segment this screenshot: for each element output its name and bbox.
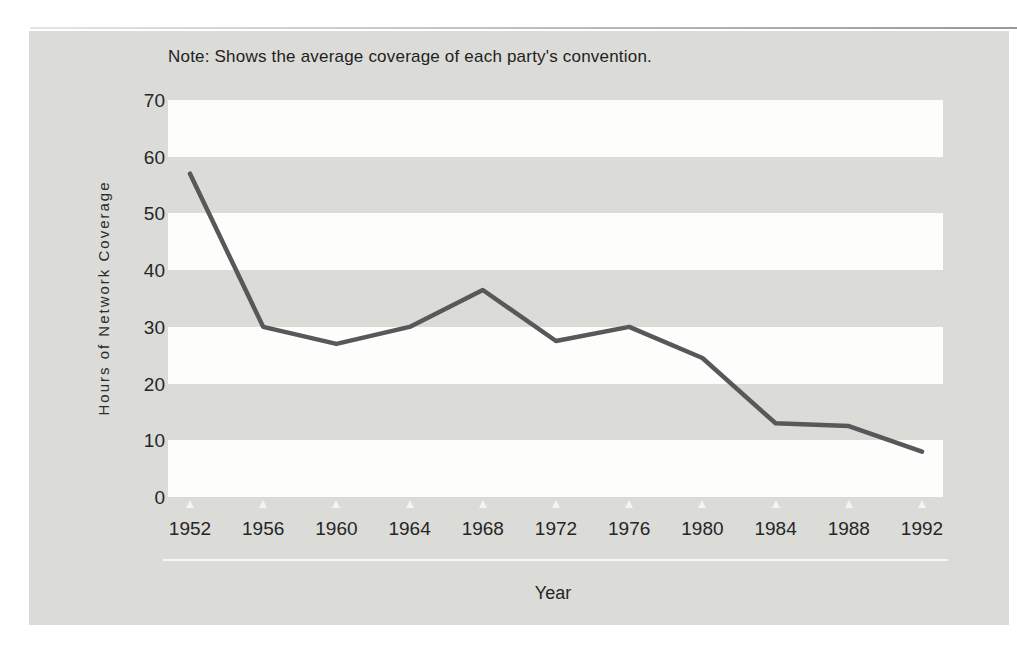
- axis-tick-triangle-icon: [259, 500, 267, 508]
- x-tick-label: 1968: [448, 518, 518, 540]
- x-tick-label: 1988: [814, 518, 884, 540]
- chart-panel: Note: Shows the average coverage of each…: [29, 31, 1009, 625]
- x-tick-label: 1980: [667, 518, 737, 540]
- x-tick-label: 1956: [228, 518, 298, 540]
- axis-tick-triangle-icon: [845, 500, 853, 508]
- axis-tick-triangle-icon: [332, 500, 340, 508]
- coverage-line: [190, 174, 922, 452]
- axis-tick-triangle-icon: [406, 500, 414, 508]
- x-tick-label: 1964: [375, 518, 445, 540]
- x-tick-label: 1976: [594, 518, 664, 540]
- x-tick-label: 1952: [155, 518, 225, 540]
- x-tick-label: 1984: [741, 518, 811, 540]
- axis-tick-triangle-icon: [772, 500, 780, 508]
- axis-tick-triangle-icon: [479, 500, 487, 508]
- x-axis-separator-line: [163, 559, 948, 561]
- x-tick-label: 1992: [887, 518, 957, 540]
- x-tick-label: 1960: [301, 518, 371, 540]
- axis-tick-triangle-icon: [186, 500, 194, 508]
- axis-tick-triangle-icon: [698, 500, 706, 508]
- plot-area: 0102030405060701952195619601964196819721…: [29, 31, 1009, 625]
- x-tick-label: 1972: [521, 518, 591, 540]
- axis-tick-triangle-icon: [552, 500, 560, 508]
- axis-tick-triangle-icon: [625, 500, 633, 508]
- x-axis-title: Year: [535, 583, 571, 604]
- axis-tick-triangle-icon: [918, 500, 926, 508]
- page-scan-edge-line: [30, 27, 1017, 29]
